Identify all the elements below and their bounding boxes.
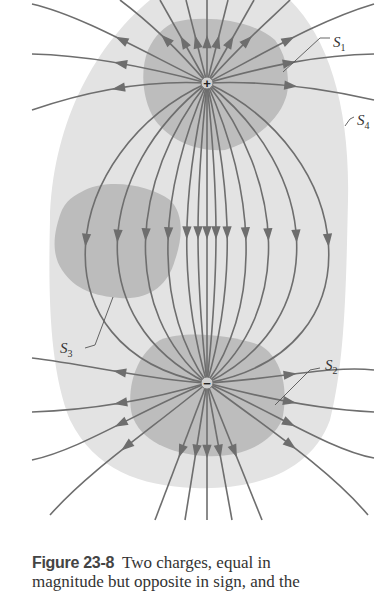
caption-line-1: Two charges, equal in — [122, 553, 271, 572]
svg-text:−: − — [203, 376, 211, 391]
figure-number: Figure 23-8 — [32, 554, 114, 571]
label-s1: S1 — [333, 34, 346, 53]
svg-text:+: + — [203, 76, 211, 91]
label-s4: S4 — [357, 112, 370, 131]
electric-field-diagram: + − S1 S4 S3 S2 — [0, 0, 379, 550]
figure-caption: Figure 23-8 Two charges, equal in magnit… — [32, 553, 379, 591]
caption-line-2: magnitude but opposite in sign, and the — [32, 572, 379, 591]
